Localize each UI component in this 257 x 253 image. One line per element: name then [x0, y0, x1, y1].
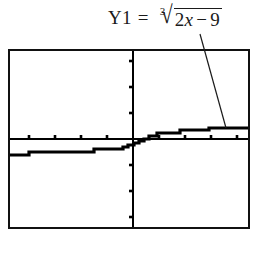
calculator-graph-figure: Y1 = 3 √ 2x−9 [0, 0, 257, 253]
radicand-variable: x [185, 9, 194, 30]
equation-label: Y1 = 3 √ 2x−9 [108, 2, 222, 34]
graph-svg [10, 51, 248, 227]
radicand-operator: − [196, 9, 207, 30]
radical-index: 3 [160, 6, 166, 17]
radicand-coefficient: 2 [175, 9, 185, 30]
equation-lhs: Y1 [108, 7, 132, 29]
radicand: 2x−9 [174, 8, 222, 31]
plot-area [10, 51, 248, 227]
cube-root-radical: 3 √ 2x−9 [155, 7, 222, 30]
radicand-constant: 9 [210, 9, 220, 30]
equals-sign: = [138, 7, 149, 29]
calculator-screen-frame [8, 49, 250, 229]
function-curve [10, 128, 248, 155]
